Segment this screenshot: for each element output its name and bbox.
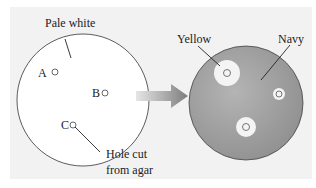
hole-c-label: C bbox=[61, 118, 69, 132]
hole-a-label: A bbox=[38, 66, 47, 80]
hole-annotation-line1: Hole cut bbox=[106, 147, 148, 161]
small-clear-zone bbox=[273, 88, 285, 100]
hole-b-label: B bbox=[92, 86, 100, 100]
hole-annotation-line2: from agar bbox=[106, 163, 153, 177]
pale-white-label: Pale white bbox=[45, 16, 95, 30]
medium-clear-zone bbox=[236, 117, 256, 137]
diffusion-diagram: Pale white A B C Hole cut from agar Yell… bbox=[0, 0, 316, 188]
right-petri-plate bbox=[189, 46, 303, 160]
yellow-label: Yellow bbox=[177, 32, 211, 46]
navy-label: Navy bbox=[278, 32, 304, 46]
